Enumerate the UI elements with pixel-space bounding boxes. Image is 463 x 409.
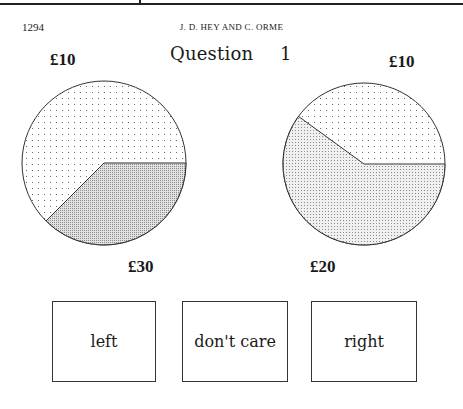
dont-care-button[interactable]: don't care: [182, 301, 288, 382]
choose-left-button[interactable]: left: [52, 301, 156, 382]
right-pie: [283, 83, 445, 245]
choose-left-label: left: [91, 332, 118, 351]
left-pie: [22, 81, 186, 245]
choose-right-label: right: [344, 332, 384, 351]
choose-right-button[interactable]: right: [311, 301, 417, 382]
dont-care-label: don't care: [194, 332, 276, 351]
